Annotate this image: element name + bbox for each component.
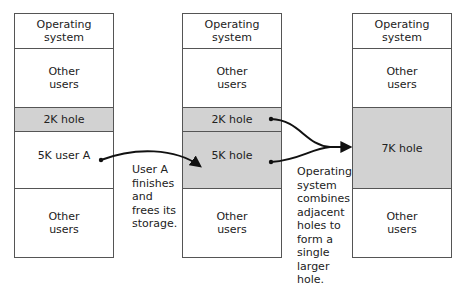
annotation-user-a-frees: User A finishes and frees its storage. [132, 163, 177, 231]
memory-column-before: Operating system Other users 2K hole 5K … [14, 13, 114, 258]
segment-7k-hole: 7K hole [353, 108, 451, 189]
annotation-os-combines-holes: Operating system combines adjacent holes… [297, 165, 352, 287]
segment-5k-hole: 5K hole [183, 132, 281, 189]
segment-operating-system: Operating system [353, 14, 451, 49]
segment-operating-system: Operating system [15, 14, 113, 49]
segment-operating-system: Operating system [183, 14, 281, 49]
segment-other-users: Other users [353, 189, 451, 257]
memory-column-after-coalesce: Operating system Other users 7K hole Oth… [352, 13, 452, 258]
segment-2k-hole: 2K hole [183, 108, 281, 132]
segment-other-users: Other users [353, 49, 451, 108]
segment-other-users: Other users [183, 189, 281, 257]
memory-column-after-free: Operating system Other users 2K hole 5K … [182, 13, 282, 258]
segment-other-users: Other users [183, 49, 281, 108]
segment-other-users: Other users [15, 189, 113, 257]
segment-2k-hole: 2K hole [15, 108, 113, 132]
segment-other-users: Other users [15, 49, 113, 108]
segment-5k-user-a: 5K user A [15, 132, 113, 189]
